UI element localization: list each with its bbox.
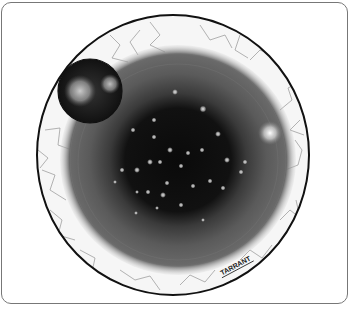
magnified-inset bbox=[58, 59, 122, 123]
eye-illustration: TARRANT bbox=[0, 0, 352, 317]
highlight-reflection bbox=[258, 121, 282, 145]
